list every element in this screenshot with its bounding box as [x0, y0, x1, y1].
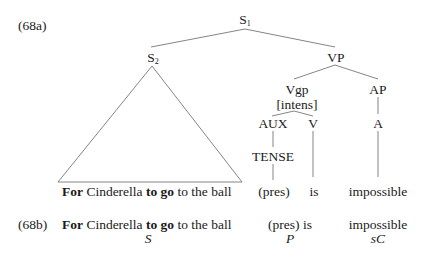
node-s2-label: S	[147, 50, 155, 65]
node-tense: TENSE	[252, 150, 294, 164]
word-to-go: to go	[146, 217, 174, 232]
example-label-a: (68a)	[18, 19, 46, 33]
node-vgp: Vgp	[285, 83, 308, 97]
leaf-impossible: impossible	[349, 185, 408, 199]
leaf-word-for: For	[62, 184, 83, 199]
node-a: A	[373, 117, 383, 131]
predicate-text: (pres) is	[268, 218, 312, 232]
node-vgp-feature: [intens]	[276, 98, 317, 112]
node-s2: S2	[147, 51, 159, 66]
leaf-sentence-a: For Cinderella to go to the ball	[62, 185, 231, 199]
node-s2-subscript: 2	[155, 57, 159, 66]
leaf-pres: (pres)	[258, 185, 289, 199]
node-v: V	[308, 117, 318, 131]
word-cinderella: Cinderella	[83, 217, 146, 232]
node-s1: S1	[239, 13, 251, 28]
node-s1-label: S	[239, 12, 247, 27]
word-for: For	[62, 217, 83, 232]
function-predicate: P	[286, 232, 294, 246]
node-ap: AP	[369, 83, 386, 97]
leaf-is: is	[309, 185, 318, 199]
complement-text: impossible	[349, 218, 408, 232]
example-label-b: (68b)	[18, 218, 47, 232]
node-s1-subscript: 1	[247, 19, 251, 28]
function-subject: S	[145, 232, 152, 246]
node-aux: AUX	[258, 117, 287, 131]
leaf-word-to-the-ball: to the ball	[174, 184, 231, 199]
leaf-word-to-go: to go	[146, 184, 174, 199]
leaf-word-cinderella: Cinderella	[83, 184, 146, 199]
sentence-b: For Cinderella to go to the ball	[62, 218, 231, 232]
function-complement: sC	[371, 232, 385, 246]
word-to-the-ball: to the ball	[174, 217, 231, 232]
node-vp: VP	[327, 51, 344, 65]
